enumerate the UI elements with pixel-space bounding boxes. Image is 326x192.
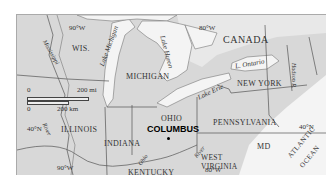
scale-200-km: 200 km — [57, 106, 78, 113]
label-new-york: NEW YORK — [237, 80, 282, 88]
lon-90w-bottom: 90°W — [57, 165, 73, 172]
map-of-ohio-region: 0 200 mi 0 200 km 90°W 80°W 40°N 40°N 90… — [16, 14, 326, 175]
lon-90w-top: 90°W — [69, 25, 85, 32]
label-pennsylvania: PENNSYLVANIA — [213, 119, 277, 127]
label-indiana: INDIANA — [104, 140, 140, 148]
scale-zero-km: 0 — [27, 106, 31, 113]
label-west-virginia: WEST VIRGINIA — [201, 153, 241, 171]
label-md: MD — [257, 143, 271, 151]
label-ohio: OHIO — [161, 115, 182, 123]
label-wis: WIS. — [72, 45, 90, 53]
columbus-dot-icon — [167, 137, 170, 140]
map-graphic — [17, 15, 326, 175]
label-kentucky: KENTUCKY — [128, 169, 174, 175]
label-canada: CANADA — [223, 35, 269, 45]
lat-40n-left: 40°N — [27, 126, 42, 133]
label-illinois: ILLINOIS — [61, 126, 97, 134]
lake-michigan — [103, 19, 135, 107]
label-hudson-river: Hudson R. — [291, 63, 297, 88]
label-columbus: COLUMBUS — [147, 125, 199, 134]
scale-zero-mi: 0 — [27, 87, 31, 94]
label-michigan: MICHIGAN — [126, 73, 169, 81]
lon-80w-top: 80°W — [199, 25, 215, 32]
scale-200-mi: 200 mi — [77, 87, 97, 94]
